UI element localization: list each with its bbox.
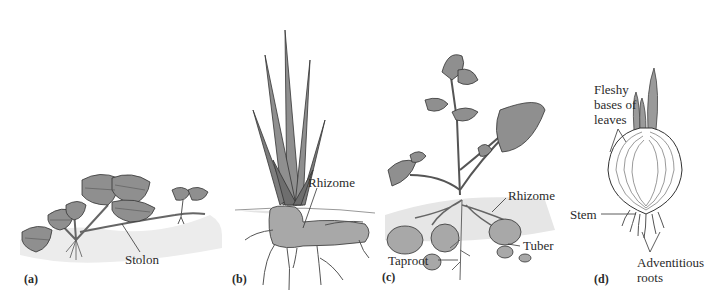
label-tuber: Tuber (523, 238, 554, 253)
panel-a-strawberry: Stolon (a) (0, 0, 225, 298)
panel-b-iris: Rhizome (b) (225, 0, 385, 298)
panel-label-b: (b) (232, 272, 247, 287)
label-taproot: Taproot (388, 253, 428, 268)
label-rhizome-c: Rhizome (508, 188, 555, 203)
label-fleshy-bases-line3: leaves (594, 112, 626, 127)
panel-label-c: (c) (382, 270, 395, 285)
panel-d-onion: Fleshy bases of leaves Stem Adventitious… (570, 0, 723, 298)
strawberry-illustration (0, 0, 225, 298)
label-fleshy-bases-line1: Fleshy (594, 82, 629, 97)
label-fleshy-bases-line2: bases of (594, 97, 636, 112)
panel-label-d: (d) (594, 272, 609, 287)
panel-label-a: (a) (24, 272, 38, 287)
onion-illustration (570, 0, 723, 298)
iris-illustration (225, 0, 385, 298)
label-rhizome-b: Rhizome (308, 175, 355, 190)
label-adventitious-roots-line2: roots (637, 270, 663, 285)
label-adventitious-roots-line1: Adventitious (637, 255, 704, 270)
label-stolon: Stolon (125, 252, 159, 267)
label-stem: Stem (570, 207, 597, 222)
panel-c-potato: Rhizome Tuber Taproot (c) (380, 0, 570, 298)
